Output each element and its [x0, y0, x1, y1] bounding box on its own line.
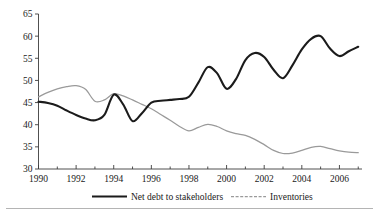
chart-container: 3035404550556065 19901992199419961998200… [0, 0, 379, 211]
x-tick-label: 1992 [67, 174, 86, 184]
y-tick-label: 65 [23, 9, 33, 19]
legend-label-net-debt: Net debt to stakeholders [131, 192, 223, 202]
x-tick-label: 2000 [217, 174, 236, 184]
x-tick-label: 1994 [104, 174, 123, 184]
y-tick-label: 40 [23, 120, 33, 130]
y-axis-ticks [35, 14, 39, 169]
x-tick-label: 2006 [330, 174, 349, 184]
x-axis-tick-labels: 199019921994199619982000200220042006 [29, 174, 349, 184]
y-axis-tick-labels: 3035404550556065 [23, 9, 33, 174]
y-tick-label: 35 [23, 142, 33, 152]
series-line-net-debt-to-stakeholders [39, 36, 359, 122]
x-tick-label: 1990 [29, 174, 48, 184]
x-tick-label: 1998 [179, 174, 198, 184]
legend: Net debt to stakeholders Inventories [92, 192, 313, 202]
y-tick-label: 55 [23, 54, 33, 64]
series-group [39, 36, 359, 154]
line-chart: 3035404550556065 19901992199419961998200… [0, 0, 379, 211]
x-tick-label: 2004 [292, 174, 311, 184]
y-tick-label: 50 [23, 76, 33, 86]
y-tick-label: 45 [23, 98, 33, 108]
y-tick-label: 60 [23, 32, 33, 42]
x-axis-ticks [39, 165, 359, 169]
legend-label-inventories: Inventories [270, 192, 313, 202]
y-axis: 3035404550556065 [23, 9, 39, 174]
x-tick-label: 1996 [142, 174, 161, 184]
x-tick-label: 2002 [255, 174, 274, 184]
x-axis: 199019921994199619982000200220042006 [29, 165, 362, 184]
